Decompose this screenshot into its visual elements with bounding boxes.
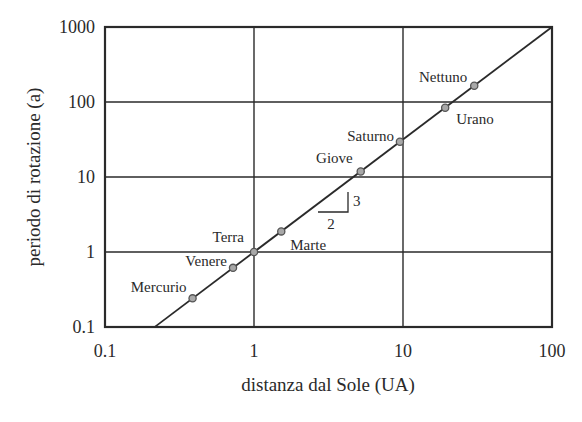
point-label-urano: Urano bbox=[456, 111, 494, 127]
y-axis-label: periodo di rotazione (a) bbox=[23, 88, 45, 267]
data-points: MercurioVenereTerraMarteGioveSaturnoUran… bbox=[131, 69, 494, 302]
slope-run-label: 2 bbox=[327, 216, 335, 232]
x-tick-label: 1 bbox=[250, 341, 259, 361]
data-point-venere bbox=[229, 264, 236, 271]
data-point-saturno bbox=[396, 138, 403, 145]
y-tick-label: 1000 bbox=[59, 17, 95, 37]
data-point-nettuno bbox=[471, 82, 478, 89]
data-point-giove bbox=[357, 168, 364, 175]
y-tick-label: 100 bbox=[68, 92, 95, 112]
y-tick-label: 10 bbox=[77, 167, 95, 187]
point-label-nettuno: Nettuno bbox=[419, 69, 467, 85]
data-point-mercurio bbox=[189, 295, 196, 302]
data-point-marte bbox=[278, 228, 285, 235]
x-axis-ticks: 0.1110100 bbox=[94, 341, 566, 361]
x-tick-label: 100 bbox=[539, 341, 566, 361]
x-tick-label: 10 bbox=[394, 341, 412, 361]
point-label-saturno: Saturno bbox=[347, 128, 394, 144]
point-label-mercurio: Mercurio bbox=[131, 279, 187, 295]
y-axis-ticks: 0.11101001000 bbox=[59, 17, 95, 337]
point-label-terra: Terra bbox=[213, 229, 245, 245]
y-tick-label: 0.1 bbox=[73, 317, 96, 337]
point-label-giove: Giove bbox=[316, 150, 353, 166]
point-label-venere: Venere bbox=[185, 253, 227, 269]
point-label-marte: Marte bbox=[290, 237, 326, 253]
data-point-terra bbox=[250, 248, 257, 255]
kepler-log-log-chart: 0.1110100 0.11101001000 distanza dal Sol… bbox=[0, 0, 582, 422]
y-tick-label: 1 bbox=[86, 242, 95, 262]
x-tick-label: 0.1 bbox=[94, 341, 117, 361]
data-point-urano bbox=[442, 104, 449, 111]
slope-rise-label: 3 bbox=[353, 193, 361, 209]
x-axis-label: distanza dal Sole (UA) bbox=[241, 374, 415, 396]
